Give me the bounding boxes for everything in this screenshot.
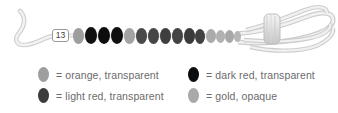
legend-equals-sign: = xyxy=(56,90,62,102)
beaded-cord-figure: 13 = orange, transparent xyxy=(0,0,338,113)
legend-equals-sign: = xyxy=(206,69,212,81)
bead xyxy=(85,27,97,44)
bead xyxy=(136,28,147,44)
legend-label-text: dark red, transparent xyxy=(215,69,315,81)
legend-item-label: = orange, transparent xyxy=(56,69,159,81)
legend-item-label: = dark red, transparent xyxy=(206,69,315,81)
cord-coil-bundle xyxy=(236,7,333,50)
bead xyxy=(184,28,195,44)
legend-item-light-red-transparent: = light red, transparent xyxy=(38,88,188,103)
bead-swatch-icon xyxy=(188,67,199,82)
legend-label-text: gold, opaque xyxy=(215,90,277,102)
legend-equals-sign: = xyxy=(206,90,212,102)
legend-label-text: orange, transparent xyxy=(65,69,159,81)
legend-item-label: = gold, opaque xyxy=(206,90,277,102)
figure-number-label: 13 xyxy=(52,29,69,42)
legend-item-dark-red-transparent: = dark red, transparent xyxy=(188,67,338,82)
bead xyxy=(73,28,84,44)
legend-row: = light red, transparent = gold, opaque xyxy=(0,85,338,106)
bead xyxy=(206,29,216,43)
bead xyxy=(195,29,205,44)
bead-swatch-icon xyxy=(188,88,199,103)
bead xyxy=(111,27,123,44)
bead-color-legend: = orange, transparent = dark red, transp… xyxy=(0,62,338,113)
bead xyxy=(148,28,159,44)
bead xyxy=(98,27,110,44)
bead xyxy=(216,30,225,43)
bead xyxy=(234,31,241,42)
legend-item-gold-opaque: = gold, opaque xyxy=(188,88,338,103)
cord-binding-wrap xyxy=(264,14,280,44)
legend-label-text: light red, transparent xyxy=(65,90,164,102)
legend-row: = orange, transparent = dark red, transp… xyxy=(0,64,338,85)
bead xyxy=(124,28,135,44)
bead-strand-photo: 13 xyxy=(0,0,338,64)
bead xyxy=(160,28,171,44)
legend-item-label: = light red, transparent xyxy=(56,90,164,102)
bead-swatch-icon xyxy=(38,88,49,103)
legend-item-orange-transparent: = orange, transparent xyxy=(38,67,188,82)
legend-equals-sign: = xyxy=(56,69,62,81)
bead xyxy=(172,28,183,44)
bead xyxy=(225,30,234,43)
bead-swatch-icon xyxy=(38,67,49,82)
